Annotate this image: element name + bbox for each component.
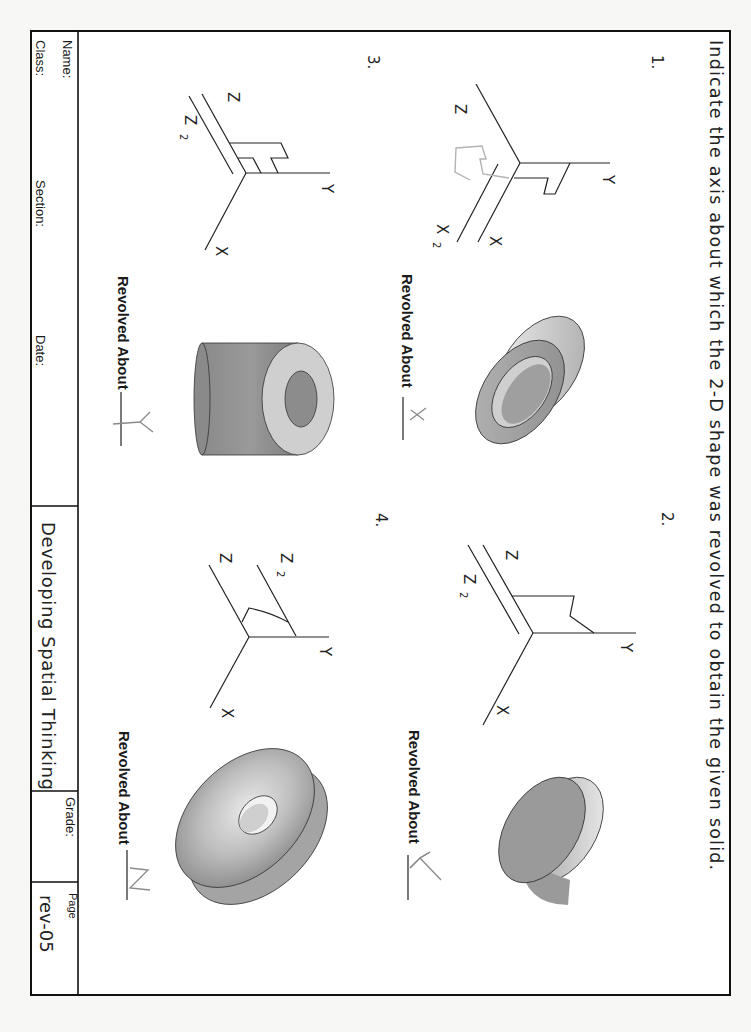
axis-label-z: Z (502, 550, 520, 560)
axis-label-y: Y (316, 646, 334, 657)
axis-label-extra: Z (460, 574, 478, 584)
answer-prompt: Revolved About (116, 731, 133, 845)
date-label: Date: (33, 335, 48, 366)
axis-label-x: X (212, 246, 230, 256)
answer-prompt: Revolved About (399, 274, 416, 388)
worksheet-page: Name: Class: Section: Date: Developing S… (0, 0, 751, 1032)
problem-number: 3. (364, 55, 382, 69)
axis-label-extra-sub: 2 (431, 242, 442, 248)
worksheet-title: Developing Spatial Thinking (38, 522, 59, 791)
answer-prompt: Revolved About (406, 730, 423, 844)
axis-label-z: Z (451, 104, 469, 114)
axis-label-x: X (218, 708, 236, 718)
class-label: Class: (33, 40, 48, 76)
name-label: Name: (60, 40, 75, 78)
axis-label-extra-sub: 2 (275, 571, 286, 577)
problem-number: 1. (648, 55, 666, 69)
solid-tube (194, 343, 334, 455)
axis-label-y: Y (318, 183, 336, 194)
axis-label-y: Y (599, 174, 617, 185)
grade-label: Grade: (63, 797, 78, 837)
axis-label-x: X (493, 705, 511, 715)
axis-label-z: Z (216, 553, 234, 563)
axis-label-extra-sub: 2 (178, 134, 189, 140)
page-label: Page (67, 893, 79, 919)
axis-label-extra: X (433, 224, 451, 234)
problem-number: 2. (658, 512, 676, 526)
axis-label-extra-sub: 2 (458, 592, 469, 598)
axis-label-extra: Z (277, 553, 295, 563)
problem-number: 4. (372, 513, 390, 527)
axis-label-z: Z (224, 92, 242, 102)
axis-label-x: X (486, 236, 504, 246)
axis-label-y: Y (617, 642, 635, 653)
answer-prompt: Revolved About (115, 276, 132, 390)
section-label: Section: (33, 180, 48, 227)
page-number: rev-05 (36, 895, 57, 953)
instructions: Indicate the axis about which the 2-D sh… (706, 40, 726, 871)
axis-label-extra: Z (181, 115, 199, 125)
